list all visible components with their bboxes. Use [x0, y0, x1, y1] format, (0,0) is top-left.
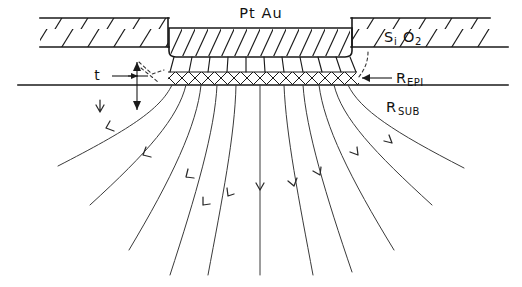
epi-resistance-label-sub: EPI: [407, 77, 424, 88]
oxide-left-hatch-fill: [40, 18, 168, 47]
metal-contact-layer: [169, 28, 352, 57]
epi-layer-crosshatch-fill: [166, 72, 360, 85]
diagram-root: t: [0, 0, 522, 287]
semiconductor-cross-section-figure: t: [0, 0, 522, 287]
substrate-resistance-label-sub: SUB: [398, 106, 420, 117]
metal-contact-hatch-fill: [170, 29, 350, 56]
thickness-label: t: [94, 67, 100, 83]
metal-contact-label: Pt Au: [239, 5, 283, 21]
oxide-label-i-sub: i: [394, 36, 397, 47]
epi-layer: [166, 72, 360, 85]
oxide-layer-right: [351, 18, 508, 47]
oxide-label-2-sub: 2: [415, 36, 422, 47]
epi-resistance-label-r: R: [396, 70, 407, 86]
substrate-resistance-label-r: R: [386, 99, 397, 115]
oxide-label-o: O: [403, 29, 416, 45]
oxide-label-si: S: [384, 29, 394, 45]
oxide-layer-left: [40, 18, 169, 47]
